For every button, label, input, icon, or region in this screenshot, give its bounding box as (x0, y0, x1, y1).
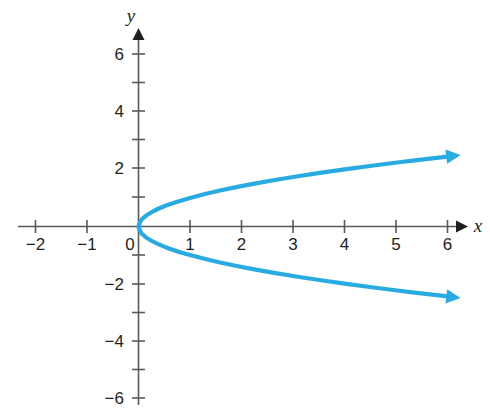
y-tick-label--2: −2 (105, 275, 124, 294)
y-tick-label-4: 4 (115, 102, 124, 121)
y-tick-label-6: 6 (115, 45, 124, 64)
x-tick-label-5: 5 (391, 235, 400, 254)
cartesian-plot: −2 −1 0 1 2 3 4 5 6 6 4 2 −2 −4 −6 y x (0, 0, 490, 412)
y-tick-label--4: −4 (105, 332, 124, 351)
x-axis-arrowhead (456, 221, 468, 233)
y-tick-label--6: −6 (105, 389, 124, 408)
x-axis-label: x (473, 215, 483, 236)
x-tick-label-4: 4 (340, 235, 349, 254)
x-tick-label-0: 0 (125, 235, 134, 254)
x-tick-label-3: 3 (288, 235, 297, 254)
x-tick-label-6: 6 (443, 235, 452, 254)
x-tick-label--1: −1 (77, 235, 96, 254)
x-tick-label--2: −2 (26, 235, 45, 254)
y-axis-arrowhead (133, 28, 145, 40)
y-axis-label: y (125, 5, 136, 26)
x-tick-labels: −2 −1 0 1 2 3 4 5 6 (26, 235, 452, 254)
parabola-upper-arrowhead (445, 150, 460, 164)
graph-figure: −2 −1 0 1 2 3 4 5 6 6 4 2 −2 −4 −6 y x (0, 0, 490, 412)
parabola-upper-branch (139, 157, 448, 227)
y-tick-label-2: 2 (115, 159, 124, 178)
x-tick-label-1: 1 (185, 235, 194, 254)
x-tick-label-2: 2 (237, 235, 246, 254)
parabola-lower-arrowhead (445, 289, 460, 303)
axes-group (18, 28, 468, 405)
